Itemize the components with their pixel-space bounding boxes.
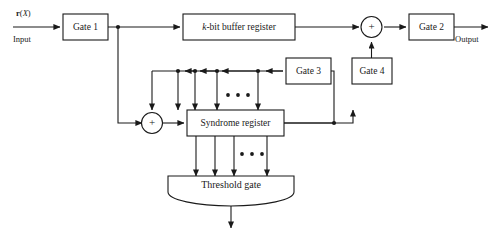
junction-syndrome-output-split bbox=[332, 121, 336, 125]
block-gate3-label: Gate 3 bbox=[296, 66, 321, 76]
buffer-label-rest: -bit buffer register bbox=[206, 22, 276, 32]
output-label: Output bbox=[455, 34, 479, 44]
ellipsis-dot-lower-1 bbox=[240, 152, 244, 156]
ellipsis-dot-upper-1 bbox=[226, 93, 230, 97]
wire-gate1-branch-to-adder-left bbox=[118, 27, 142, 123]
junction-bus-tap-1 bbox=[176, 69, 180, 73]
block-gate1-label: Gate 1 bbox=[73, 22, 98, 32]
block-gate4-label: Gate 4 bbox=[359, 66, 384, 76]
block-threshold-gate-label: Threshold gate bbox=[201, 179, 261, 190]
input-signal-paren-close: ) bbox=[28, 8, 31, 18]
block-buffer-register-label: k-bit buffer register bbox=[202, 22, 277, 32]
junction-bus-tap-2 bbox=[193, 69, 197, 73]
block-diagram-canvas: Gate 1 k-bit buffer register Gate 2 Gate… bbox=[0, 0, 499, 234]
ellipsis-dot-lower-2 bbox=[250, 152, 254, 156]
input-signal-label: r(X) bbox=[16, 8, 31, 18]
ellipsis-dot-upper-3 bbox=[246, 93, 250, 97]
wire-syndrome-to-gate4 bbox=[284, 110, 353, 123]
ellipsis-dot-upper-2 bbox=[236, 93, 240, 97]
adder-right-symbol: + bbox=[368, 20, 374, 32]
junction-bus-tap-4 bbox=[256, 69, 260, 73]
ellipsis-dot-lower-3 bbox=[260, 152, 264, 156]
block-gate2-label: Gate 2 bbox=[419, 22, 444, 32]
input-sublabel: Input bbox=[13, 34, 32, 44]
adder-left-symbol: + bbox=[149, 116, 155, 128]
junction-bus-tap-3 bbox=[215, 69, 219, 73]
block-syndrome-register-label: Syndrome register bbox=[201, 118, 272, 128]
diagram-svg: Gate 1 k-bit buffer register Gate 2 Gate… bbox=[0, 0, 499, 234]
